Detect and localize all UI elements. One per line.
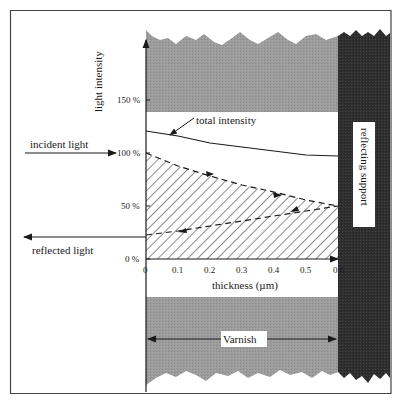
- reflected-light-label: reflected light: [32, 244, 93, 256]
- x-tick-0.1: 0.1: [172, 265, 183, 275]
- total-intensity-label: total intensity: [196, 114, 256, 126]
- x-tick-0.6: 0.6: [333, 265, 344, 275]
- diagram-canvas: light intensity 150 % 100 % 50 % 0 % 0 0…: [0, 0, 404, 415]
- incident-light-label: incident light: [30, 138, 88, 150]
- x-tick-0.4: 0.4: [268, 265, 279, 275]
- x-tick-0.3: 0.3: [236, 265, 247, 275]
- x-tick-0.2: 0.2: [204, 265, 215, 275]
- hatched-absorption-area: [146, 153, 338, 259]
- varnish-top-band: [146, 30, 338, 112]
- total-intensity-pointer: [170, 118, 194, 135]
- y-tick-0: 0 %: [125, 254, 139, 264]
- varnish-label: Varnish: [223, 333, 257, 345]
- y-tick-150: 150 %: [117, 95, 140, 105]
- total-intensity-curve: [146, 131, 338, 156]
- reflecting-support-label: reflecting support: [359, 128, 371, 206]
- x-tick-0.5: 0.5: [300, 265, 311, 275]
- y-tick-100: 100 %: [117, 148, 140, 158]
- y-tick-50: 50 %: [121, 201, 140, 211]
- x-tick-0: 0: [143, 265, 148, 275]
- y-axis-label: light intensity: [92, 51, 104, 112]
- x-axis-label: thickness (µm): [212, 279, 278, 291]
